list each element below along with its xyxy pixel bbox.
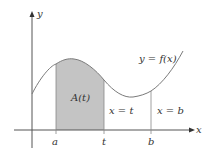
x-axis-arrow-icon	[189, 128, 195, 133]
line-t-label: x = t	[109, 105, 134, 116]
line-b-label: x = b	[157, 105, 184, 116]
curve-label: y = f(x)	[138, 53, 177, 64]
tick-b: b	[148, 136, 154, 147]
tick-a: a	[52, 136, 58, 147]
y-axis-arrow-icon	[30, 11, 35, 17]
tick-t: t	[102, 136, 107, 147]
area-label: A(t)	[70, 92, 90, 103]
y-axis-label: y	[36, 8, 43, 19]
area-function-diagram: y x y = f(x) A(t) x = t x = b a t b	[0, 0, 204, 151]
x-axis-label: x	[196, 124, 202, 135]
